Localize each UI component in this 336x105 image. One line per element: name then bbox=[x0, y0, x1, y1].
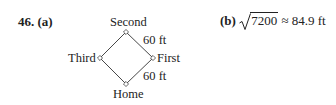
square-root-expression: 7200 bbox=[239, 13, 278, 29]
label-side-lower-right: 60 ft bbox=[143, 69, 166, 84]
label-side-upper-right: 60 ft bbox=[143, 33, 166, 48]
answer-value: 84.9 ft bbox=[292, 13, 326, 28]
label-second-base: Second bbox=[110, 15, 147, 30]
approx-symbol: ≈ bbox=[281, 13, 288, 28]
part-b-answer: (b) 7200 ≈ 84.9 ft bbox=[220, 13, 326, 29]
part-b-label: (b) bbox=[220, 13, 236, 28]
radical-sign-icon bbox=[239, 13, 251, 31]
radicand: 7200 bbox=[250, 12, 278, 28]
label-third-base: Third bbox=[68, 51, 96, 66]
label-home-plate: Home bbox=[113, 87, 144, 102]
label-first-base: First bbox=[157, 51, 180, 66]
